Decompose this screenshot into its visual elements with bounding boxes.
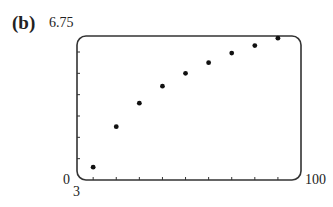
axis-ticks — [77, 52, 278, 180]
data-points — [91, 36, 281, 170]
data-point — [229, 51, 234, 56]
data-point — [252, 43, 257, 48]
data-point — [114, 124, 119, 129]
scatter-plot — [0, 0, 333, 207]
data-point — [206, 60, 211, 65]
data-point — [276, 36, 281, 41]
plot-frame — [77, 36, 301, 180]
data-point — [91, 165, 96, 170]
data-point — [160, 84, 165, 89]
data-point — [183, 71, 188, 76]
data-point — [137, 101, 142, 106]
